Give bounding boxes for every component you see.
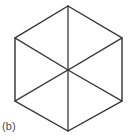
hexagon-diagram xyxy=(0,0,130,140)
figure-panel: (b) xyxy=(0,0,130,140)
figure-caption-label: (b) xyxy=(2,120,16,133)
spoke-to-bottom-right-icon xyxy=(68,70,122,101)
spoke-to-bottom-left-icon xyxy=(15,70,68,101)
spoke-to-top-left-icon xyxy=(15,38,68,70)
spoke-to-top-right-icon xyxy=(68,38,122,70)
